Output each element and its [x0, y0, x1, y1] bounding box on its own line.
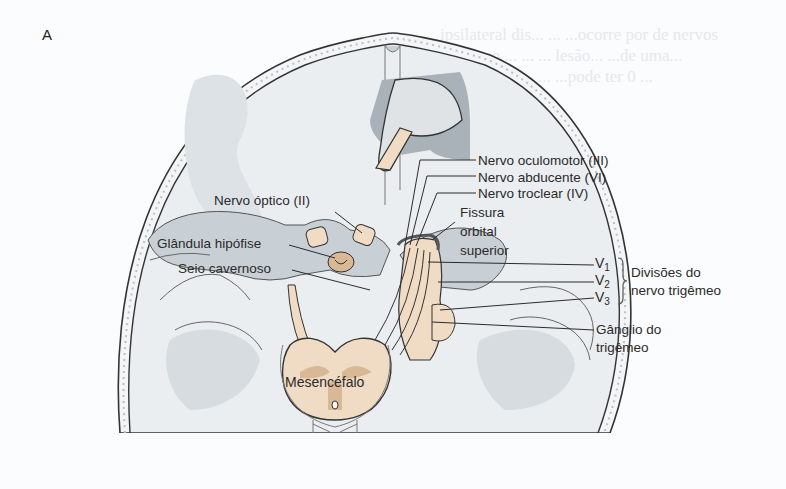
label-superior-orbital-fissure-2: orbital	[460, 224, 497, 240]
panel-label: A	[42, 26, 52, 43]
label-trigeminal-ganglion-1: Gânglio do	[596, 322, 661, 338]
label-oculomotor-nerve: Nervo oculomotor (III)	[478, 153, 609, 169]
label-trigeminal-divisions-1: Divisões do	[631, 265, 701, 281]
label-abducens-nerve: Nervo abducente (VI)	[478, 170, 606, 186]
label-optic-nerve: Nervo óptico (II)	[214, 193, 310, 209]
cranial-nerve-diagram	[0, 0, 786, 489]
label-trigeminal-ganglion-2: trigêmeo	[596, 340, 649, 356]
label-trochlear-nerve: Nervo troclear (IV)	[478, 186, 588, 202]
label-v3: V3	[595, 290, 610, 309]
brace-icon	[616, 256, 628, 306]
label-midbrain: Mesencéfalo	[285, 374, 364, 390]
label-trigeminal-divisions-2: nervo trigêmeo	[631, 283, 721, 299]
label-superior-orbital-fissure-1: Fissura	[460, 205, 504, 221]
label-superior-orbital-fissure-3: superior	[460, 243, 509, 259]
label-pituitary-gland: Glândula hipófise	[157, 236, 261, 252]
label-cavernous-sinus: Seio cavernoso	[178, 261, 271, 277]
page-margin	[0, 433, 786, 489]
